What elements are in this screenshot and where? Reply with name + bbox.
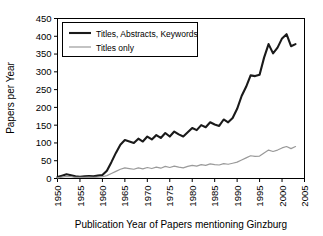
x-tick-label-1980: 1980 — [187, 186, 198, 207]
x-tick-label-2005: 2005 — [299, 186, 310, 207]
x-tick-label-1950: 1950 — [52, 186, 63, 207]
y-tick-label-350: 350 — [36, 48, 52, 59]
legend-label-titles-only: Titles only — [96, 43, 135, 53]
y-tick-label-400: 400 — [36, 31, 52, 42]
y-tick-label-0: 0 — [46, 173, 51, 184]
y-tick-label-250: 250 — [36, 84, 52, 95]
y-tick-label-50: 50 — [41, 155, 52, 166]
y-tick-label-300: 300 — [36, 66, 52, 77]
x-tick-label-1985: 1985 — [209, 186, 220, 207]
line-chart: 050100150200250300350400450 195019551960… — [0, 0, 323, 236]
y-tick-label-150: 150 — [36, 120, 52, 131]
chart-legend: Titles, Abstracts, Keywords Titles only — [63, 23, 198, 57]
x-tick-label-1975: 1975 — [164, 186, 175, 207]
x-tick-label-1970: 1970 — [142, 186, 153, 207]
x-tick-label-1960: 1960 — [97, 186, 108, 207]
x-tick-label-2000: 2000 — [277, 186, 288, 207]
x-tick-label-1965: 1965 — [119, 186, 130, 207]
y-tick-label-200: 200 — [36, 102, 52, 113]
x-tick-label-1955: 1955 — [75, 186, 86, 207]
x-tick-label-1990: 1990 — [232, 186, 243, 207]
chart-figure: 050100150200250300350400450 195019551960… — [0, 0, 323, 236]
x-axis-title: Publication Year of Papers mentioning Gi… — [75, 219, 287, 230]
x-tick-label-1995: 1995 — [254, 186, 265, 207]
y-tick-label-450: 450 — [36, 13, 52, 24]
legend-label-titles-abstracts-keywords: Titles, Abstracts, Keywords — [96, 29, 198, 39]
y-tick-label-100: 100 — [36, 137, 52, 148]
y-axis-title: Papers per Year — [5, 61, 16, 133]
